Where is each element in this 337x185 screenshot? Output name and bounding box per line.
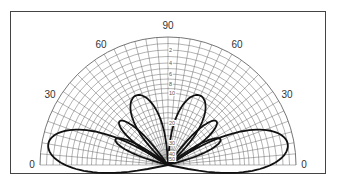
grid-spoke bbox=[86, 67, 164, 160]
radial-scale-label: 30 bbox=[169, 140, 175, 146]
grid-spoke bbox=[40, 154, 162, 165]
radial-scale-labels: 24681020304050 bbox=[169, 47, 177, 162]
radial-scale-label: 20 bbox=[169, 120, 175, 126]
angle-label-60-right: 60 bbox=[231, 39, 243, 50]
polar-grid bbox=[40, 37, 296, 165]
angle-label-60-left: 60 bbox=[95, 39, 107, 50]
angle-label-0-right: 0 bbox=[301, 159, 307, 170]
radial-scale-label: 10 bbox=[169, 90, 175, 96]
radial-scale-label: 2 bbox=[169, 47, 172, 53]
radial-scale-label: 4 bbox=[169, 60, 172, 66]
angle-label-90: 90 bbox=[162, 20, 174, 31]
grid-spoke bbox=[172, 67, 250, 160]
radial-scale-label: 50 bbox=[169, 156, 175, 162]
polar-chart: 030609060300 24681020304050 bbox=[0, 0, 337, 185]
radial-scale-label: 6 bbox=[169, 71, 172, 77]
angle-label-30-right: 30 bbox=[281, 89, 293, 100]
angle-label-0-left: 0 bbox=[29, 159, 35, 170]
grid-spoke bbox=[70, 83, 163, 161]
grid-spoke bbox=[174, 154, 296, 165]
radial-scale-label: 8 bbox=[169, 81, 172, 87]
angle-label-30-left: 30 bbox=[44, 89, 56, 100]
grid-spoke bbox=[173, 83, 266, 161]
